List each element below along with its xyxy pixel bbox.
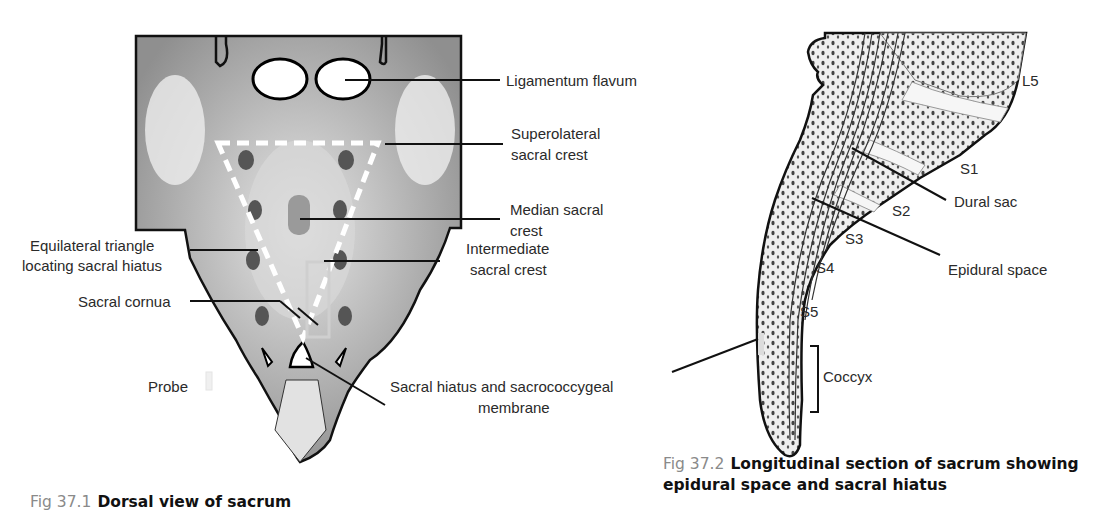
label-epidural-space: Epidural space (948, 261, 1047, 278)
label-ligamentum-flavum: Ligamentum flavum (506, 72, 637, 89)
figure2-caption-title-line2: epidural space and sacral hiatus (663, 475, 1079, 496)
label-hiatus-line2: membrane (478, 399, 550, 416)
label-coccyx: Coccyx (823, 368, 872, 385)
label-s3: S3 (845, 230, 863, 247)
label-s2: S2 (892, 202, 910, 219)
figure2-caption-title-line1: Longitudinal section of sacrum showing (730, 455, 1078, 473)
label-triangle-line2: locating sacral hiatus (22, 257, 162, 274)
figure2-caption: Fig 37.2Longitudinal section of sacrum s… (663, 454, 1079, 496)
label-s5: S5 (800, 303, 818, 320)
figure2-caption-number: Fig 37.2 (663, 455, 724, 473)
label-intermediate-line1: Intermediate (466, 240, 549, 257)
label-sacral-cornua: Sacral cornua (78, 293, 171, 310)
label-probe: Probe (148, 378, 188, 395)
label-superolateral-line2: sacral crest (511, 146, 588, 163)
label-s1: S1 (960, 160, 978, 177)
label-s4: S4 (816, 259, 834, 276)
label-triangle-line1: Equilateral triangle (30, 237, 154, 254)
label-superolateral-line1: Superolateral (511, 125, 600, 142)
label-l5: L5 (1022, 72, 1039, 89)
figure1-caption: Fig 37.1Dorsal view of sacrum (30, 492, 291, 513)
label-median-line2: crest (510, 222, 543, 239)
figure1-caption-number: Fig 37.1 (30, 493, 91, 511)
label-intermediate-line2: sacral crest (470, 261, 547, 278)
figure-longitudinal-section: L5 S1 S2 S3 S4 S5 Dural sac Epidural spa… (640, 0, 1105, 507)
figure-dorsal-sacrum: Ligamentum flavum Superolateral sacral c… (0, 0, 640, 507)
label-hiatus-line1: Sacral hiatus and sacrococcygeal (390, 378, 613, 395)
label-dural-sac: Dural sac (954, 193, 1017, 210)
figure1-caption-title: Dorsal view of sacrum (97, 493, 291, 511)
label-median-line1: Median sacral (510, 201, 603, 218)
